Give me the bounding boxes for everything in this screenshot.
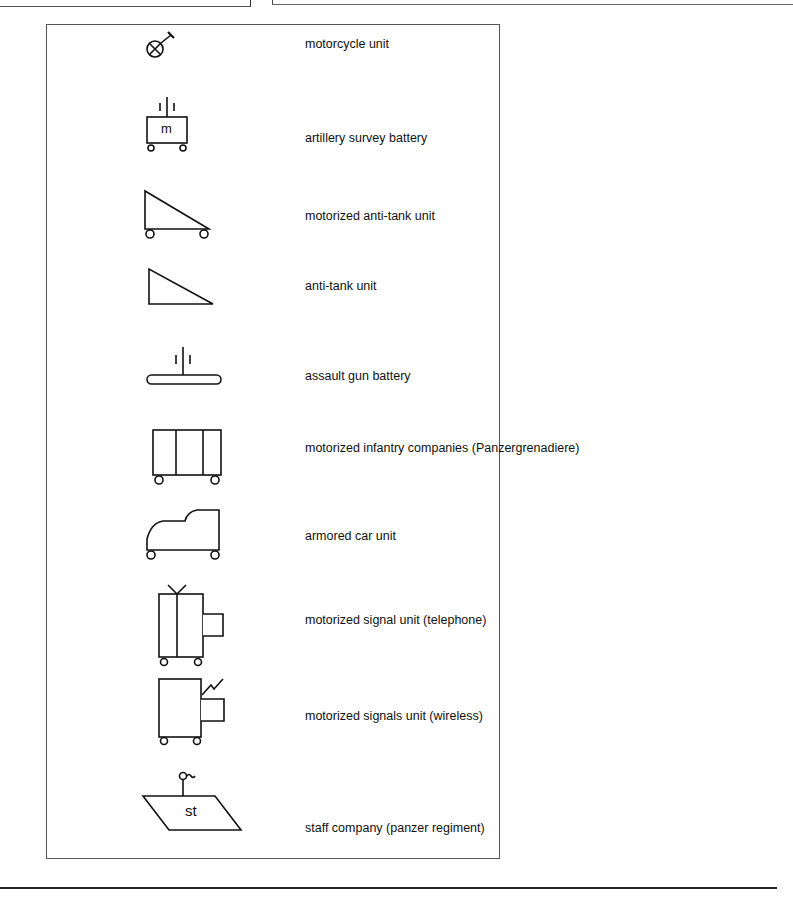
symbol-legend-box: motorcycle unit m artillery survey batte…: [46, 24, 500, 859]
staff-company-symbol-text: st: [185, 802, 197, 819]
anti-tank-icon: [149, 269, 219, 309]
artillery-survey-symbol-text: m: [161, 121, 172, 136]
motorcycle-icon: [145, 33, 185, 63]
armored-car-icon: [145, 509, 221, 565]
legend-label-armored-car: armored car unit: [305, 529, 396, 543]
legend-label-staff-company: staff company (panzer regiment): [305, 821, 485, 835]
bottom-rule-line: [0, 887, 777, 889]
staff-company-icon: st: [143, 772, 233, 842]
motorized-infantry-icon: [153, 430, 223, 486]
legend-label-signal-wireless: motorized signals unit (wireless): [305, 709, 483, 723]
legend-label-motorized-anti-tank: motorized anti-tank unit: [305, 209, 435, 223]
legend-label-assault-gun: assault gun battery: [305, 369, 411, 383]
legend-label-motorcycle: motorcycle unit: [305, 37, 389, 51]
top-left-frame-edge: [0, 0, 251, 7]
top-right-frame-edge: [272, 0, 793, 5]
signal-telephone-icon: [157, 584, 227, 664]
assault-gun-icon: [143, 347, 223, 383]
artillery-survey-icon: m: [145, 97, 205, 147]
legend-label-anti-tank: anti-tank unit: [305, 279, 377, 293]
legend-label-signal-telephone: motorized signal unit (telephone): [305, 613, 486, 627]
signal-wireless-icon: [159, 675, 229, 747]
legend-label-motorized-infantry: motorized infantry companies (Panzergren…: [305, 441, 579, 455]
motorized-anti-tank-icon: [145, 191, 215, 241]
legend-label-artillery-survey: artillery survey battery: [305, 131, 427, 145]
